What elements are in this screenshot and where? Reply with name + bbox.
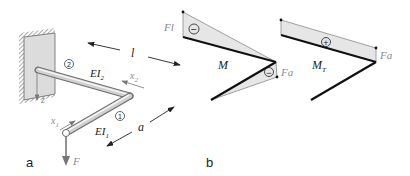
dim-l-arrow-right xyxy=(148,57,180,65)
stiffness-label-1: EI1 xyxy=(94,125,109,140)
diagram-svg: z 2 1 EI2 EI1 x2 x1 l xyxy=(0,0,410,176)
panel-label-b: b xyxy=(206,155,213,170)
stiffness-label-2: EI2 xyxy=(89,67,104,82)
dim-a-arrow-up xyxy=(150,107,174,122)
torsion-sign: + xyxy=(323,38,328,48)
dim-a-arrow-down xyxy=(107,132,132,146)
segment-1-number: 1 xyxy=(118,113,122,120)
bending-title: M xyxy=(217,58,229,72)
figure-b: − − Fl Fa M + Fa MT b xyxy=(163,11,393,170)
force-arrow-head xyxy=(62,156,70,166)
force-label: F xyxy=(72,155,80,167)
dim-l-arrow-left xyxy=(88,43,120,50)
bending-moment-diagram: − − xyxy=(182,11,279,100)
bending-corner-value: Fa xyxy=(280,66,294,78)
dim-l-label: l xyxy=(131,46,135,60)
torsion-moment-diagram: + xyxy=(280,19,378,100)
figure: z 2 1 EI2 EI1 x2 x1 l xyxy=(0,0,410,176)
z-axis-label: z xyxy=(40,94,45,105)
torsion-value: Fa xyxy=(379,49,393,61)
panel-label-a: a xyxy=(26,155,34,170)
segment-2-number: 2 xyxy=(67,61,71,68)
x2-arrow xyxy=(122,81,144,88)
torsion-title: MT xyxy=(311,58,327,74)
dim-a-label: a xyxy=(138,120,144,134)
bending-corner-sign: − xyxy=(266,68,271,78)
figure-a: z 2 1 EI2 EI1 x2 x1 l xyxy=(19,28,180,170)
bending-root-value: Fl xyxy=(163,21,174,33)
x2-label: x2 xyxy=(129,70,138,84)
x1-label: x1 xyxy=(50,115,59,129)
bending-sign: − xyxy=(191,24,197,35)
